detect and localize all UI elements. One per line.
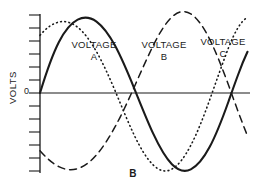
y-axis-title: VOLTS	[7, 60, 18, 116]
voltage-c-label-title: VOLTAGE	[201, 36, 246, 47]
y-axis-ticks	[29, 15, 40, 171]
voltage-a-label-title: VOLTAGE	[72, 39, 117, 50]
three-phase-voltage-figure: VOLTS 0 VOLTAGE A VOLTAGE B VOLTAGE C B	[0, 0, 266, 191]
voltage-c-label-phase: C	[190, 48, 256, 60]
figure-caption: B	[0, 168, 266, 179]
zero-tick-label: 0	[24, 86, 29, 96]
voltage-b-label-title: VOLTAGE	[142, 39, 187, 50]
voltage-c-label: VOLTAGE C	[190, 36, 256, 60]
voltage-a-label: VOLTAGE A	[58, 39, 130, 63]
waveform-plot	[0, 0, 266, 191]
voltage-a-label-phase: A	[58, 51, 130, 63]
